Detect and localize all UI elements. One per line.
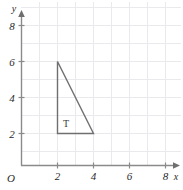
x-axis-label: x xyxy=(173,171,179,182)
grid-horizontal-lines xyxy=(21,8,181,152)
origin-label: O xyxy=(7,172,15,184)
x-tick-label-2: 2 xyxy=(55,170,61,182)
coordinate-grid-figure: 2 4 6 8 2 4 6 8 O y x T xyxy=(0,0,183,190)
x-tick-label-4: 4 xyxy=(91,170,97,182)
y-axis-label: y xyxy=(11,3,17,14)
y-axis-arrow-icon xyxy=(18,10,25,17)
shape-label-t: T xyxy=(63,118,69,129)
y-tick-label-4: 4 xyxy=(9,92,15,104)
coordinate-plane-svg: 2 4 6 8 2 4 6 8 O y x T xyxy=(0,0,183,190)
grid-vertical-lines xyxy=(40,2,166,165)
y-tick-label-2: 2 xyxy=(9,128,15,140)
x-tick-label-8: 8 xyxy=(163,170,169,182)
y-tick-label-8: 8 xyxy=(9,20,15,32)
x-tick-label-6: 6 xyxy=(127,170,133,182)
x-axis-arrow-icon xyxy=(173,162,180,169)
y-tick-label-6: 6 xyxy=(9,56,15,68)
